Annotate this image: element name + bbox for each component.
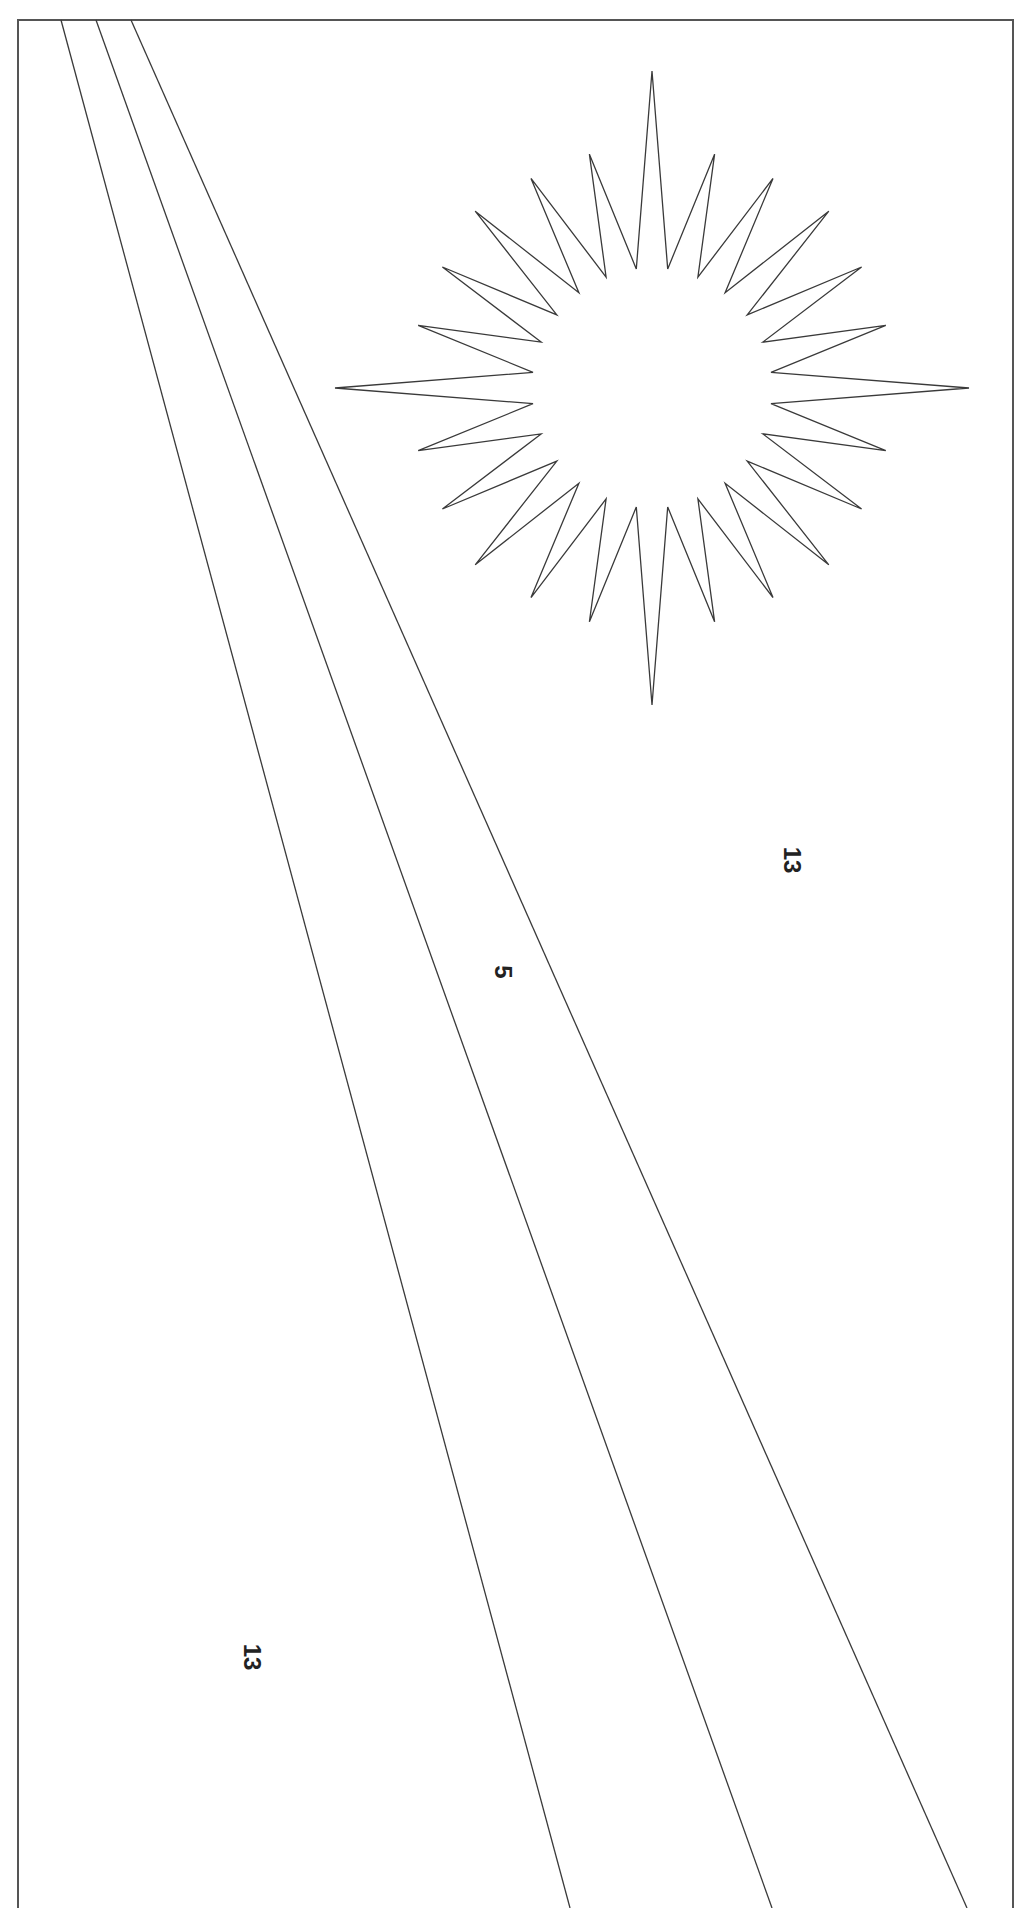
coloring-canvas: [0, 0, 1027, 1908]
flag-border: [18, 20, 1013, 1908]
region-label-lower-left: 13: [240, 1644, 264, 1671]
stripe-line-1: [61, 20, 570, 1908]
sun-star-outline: [335, 71, 969, 705]
diagonal-stripes: [61, 20, 967, 1908]
stripe-line-3: [131, 20, 967, 1908]
stripe-line-2: [96, 20, 772, 1908]
region-label-stripe: 5: [491, 965, 515, 978]
region-label-upper-right: 13: [780, 847, 804, 874]
